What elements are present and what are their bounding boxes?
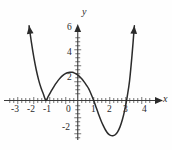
x-tick-label-4: 4 bbox=[142, 105, 147, 115]
graph-figure: y x -3 -2 -1 0 1 2 3 4 6 4 2 -2 bbox=[0, 0, 172, 150]
x-axis bbox=[4, 97, 163, 104]
coordinate-plot bbox=[0, 0, 172, 150]
polynomial-curve bbox=[27, 26, 137, 136]
quartic-curve-path bbox=[29, 26, 134, 136]
curve-left-arrowhead bbox=[27, 26, 34, 34]
y-axis bbox=[74, 24, 81, 140]
x-tick-label-neg1: -1 bbox=[43, 105, 51, 115]
y-axis-label: y bbox=[82, 7, 86, 17]
y-tick-label-neg2: -2 bbox=[62, 123, 70, 133]
x-tick-label-2: 2 bbox=[107, 105, 112, 115]
x-tick-label-neg3: -3 bbox=[11, 105, 19, 115]
x-tick-label-3: 3 bbox=[123, 105, 128, 115]
x-axis-label: x bbox=[163, 94, 167, 104]
y-tick-label-2: 2 bbox=[67, 73, 72, 83]
y-tick-label-4: 4 bbox=[67, 48, 72, 58]
x-tick-label-1: 1 bbox=[91, 105, 96, 115]
y-tick-label-6: 6 bbox=[67, 23, 72, 33]
x-tick-label-neg2: -2 bbox=[27, 105, 35, 115]
x-axis-arrowhead bbox=[155, 97, 163, 104]
x-tick-label-0: 0 bbox=[66, 105, 71, 115]
y-axis-arrowhead bbox=[74, 24, 81, 32]
